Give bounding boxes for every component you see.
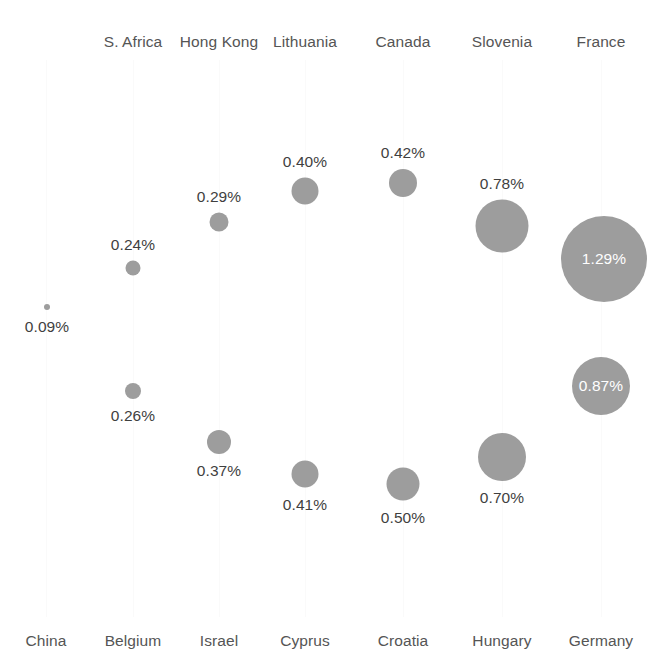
top-axis-label: S. Africa — [104, 33, 163, 51]
bubble[interactable] — [292, 461, 319, 488]
bubble-value-label: 0.29% — [197, 188, 241, 206]
bubble-value-label: 0.42% — [381, 144, 425, 162]
bubble-value-label: 0.24% — [111, 236, 155, 254]
bottom-axis-label: Belgium — [105, 632, 162, 650]
gridline — [502, 60, 503, 617]
bubble-value-label: 0.78% — [480, 175, 524, 193]
top-axis-label: France — [577, 33, 626, 51]
bubble[interactable] — [292, 178, 319, 205]
gridline — [133, 60, 134, 617]
bubble-value-label: 0.87% — [579, 377, 623, 395]
bubble-value-label: 0.40% — [283, 153, 327, 171]
gridline — [305, 60, 306, 617]
bottom-axis-label: Israel — [200, 632, 239, 650]
gridline — [46, 60, 47, 617]
bubble[interactable] — [478, 433, 526, 481]
bubble[interactable] — [126, 261, 141, 276]
bubble[interactable] — [125, 383, 141, 399]
bubble-value-label: 0.26% — [111, 407, 155, 425]
bubble[interactable] — [476, 200, 529, 253]
bubble[interactable] — [207, 430, 231, 454]
bubble-value-label: 0.41% — [283, 496, 327, 514]
bubble[interactable] — [387, 468, 420, 501]
top-axis-label: Canada — [376, 33, 431, 51]
bubble-value-label: 0.37% — [197, 462, 241, 480]
bubble-value-label: 0.70% — [480, 489, 524, 507]
bubble-value-label: 0.09% — [25, 318, 69, 336]
bottom-axis-label: Germany — [569, 632, 633, 650]
bubble[interactable] — [44, 304, 50, 310]
bottom-axis-label: Cyprus — [280, 632, 330, 650]
top-axis-label: Lithuania — [273, 33, 337, 51]
bubble-value-label: 1.29% — [582, 250, 626, 268]
bottom-axis-label: Croatia — [378, 632, 429, 650]
bottom-axis-label: China — [26, 632, 67, 650]
gridline — [601, 60, 602, 617]
top-axis-label: Hong Kong — [180, 33, 258, 51]
bubble[interactable] — [210, 213, 229, 232]
gridline — [219, 60, 220, 617]
bubble-value-label: 0.50% — [381, 509, 425, 527]
bubble[interactable] — [389, 169, 417, 197]
top-axis-label: Slovenia — [472, 33, 532, 51]
bottom-axis-label: Hungary — [472, 632, 531, 650]
